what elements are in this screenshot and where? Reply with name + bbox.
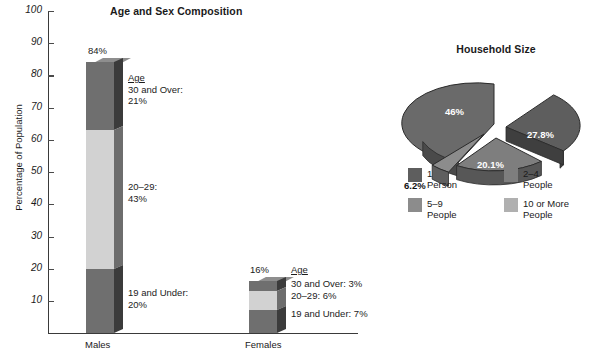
y-tick-label-60: 60 <box>0 133 42 144</box>
y-tick-label-10: 10 <box>0 294 42 305</box>
legend-label-five-to-nine-line1: 5–9 <box>427 198 443 209</box>
legend-label-two-to-four: 2–4 People <box>523 168 553 190</box>
y-tick-60 <box>48 140 54 141</box>
bar-males-segment-30-and-over <box>86 62 114 130</box>
legend-label-ten-or-more-line2: People <box>523 209 553 220</box>
y-tick-20 <box>48 269 54 270</box>
x-axis-line <box>48 333 358 334</box>
y-tick-40 <box>48 204 54 205</box>
bar-chart-title: Age and Sex Composition <box>110 5 242 17</box>
y-tick-label-30: 30 <box>0 230 42 241</box>
legend-label-ten-or-more: 10 or More People <box>523 198 569 220</box>
males-annotation-19-under-label: 19 and Under: <box>128 287 188 298</box>
pie-label-two-to-four: 20.1% <box>477 159 504 170</box>
bar-females-total-label: 16% <box>250 264 269 275</box>
bar-males-segment-20-29 <box>86 130 114 269</box>
females-annotation-line-3: 19 and Under: 7% <box>291 308 368 319</box>
pie-chart-title: Household Size <box>380 43 612 55</box>
legend-swatch-ten-or-more <box>504 198 518 212</box>
bar-females-segment-30-and-over <box>249 281 277 291</box>
x-axis-label-females: Females <box>245 339 281 350</box>
legend-label-five-to-nine: 5–9 People <box>427 198 457 220</box>
legend-item-five-to-nine[interactable]: 5–9 People <box>408 198 457 220</box>
males-annotation-30-over-label: 30 and Over: <box>128 84 183 95</box>
bar-females-segment-20-29 <box>249 291 277 310</box>
males-annotation-20-29-label: 20–29: <box>128 181 157 192</box>
bar-females-side-19-and-under <box>277 306 286 333</box>
legend-swatch-five-to-nine <box>408 198 422 212</box>
legend-label-two-to-four-line1: 2–4 <box>523 168 539 179</box>
legend-label-ten-or-more-line1: 10 or More <box>523 198 569 209</box>
legend-label-two-to-four-line2: People <box>523 179 553 190</box>
legend-label-one-person: 1 Person <box>427 168 457 190</box>
bar-males-total-label: 84% <box>88 45 107 56</box>
y-tick-30 <box>48 237 54 238</box>
y-tick-label-20: 20 <box>0 262 42 273</box>
y-tick-label-100: 100 <box>0 4 42 15</box>
bar-males-side-30-and-over <box>114 58 123 130</box>
pie-label-ten-or-more: 46% <box>445 106 464 117</box>
pie-chart-household-size: Household Size <box>380 0 612 354</box>
males-annotation-19-under-value: 20% <box>128 299 147 310</box>
females-annotation-line-1: 30 and Over: 3% <box>291 278 362 289</box>
y-tick-100 <box>48 11 54 12</box>
y-tick-80 <box>48 75 54 76</box>
females-annotation-heading: Age <box>291 264 308 275</box>
y-tick-label-50: 50 <box>0 165 42 176</box>
bar-males-side-20-29 <box>114 126 123 269</box>
legend-swatch-one-person <box>408 168 422 182</box>
figure-canvas: Age and Sex Composition Percentage of Po… <box>0 0 612 354</box>
legend-item-two-to-four[interactable]: 2–4 People <box>504 168 553 190</box>
legend-item-ten-or-more[interactable]: 10 or More People <box>504 198 569 220</box>
x-axis-label-males: Males <box>85 339 110 350</box>
y-tick-50 <box>48 172 54 173</box>
y-tick-label-70: 70 <box>0 101 42 112</box>
males-annotation-heading: Age <box>128 72 145 83</box>
pie-label-one-person: 27.8% <box>527 129 554 140</box>
legend-swatch-two-to-four <box>504 168 518 182</box>
males-annotation-30-over-value: 21% <box>128 95 147 106</box>
y-tick-70 <box>48 108 54 109</box>
males-annotation-20-29-value: 43% <box>128 193 147 204</box>
y-tick-90 <box>48 43 54 44</box>
y-tick-label-40: 40 <box>0 197 42 208</box>
bar-males-side-19-and-under <box>114 265 123 333</box>
legend-label-one-person-line1: 1 <box>427 168 432 179</box>
y-tick-label-80: 80 <box>0 68 42 79</box>
females-annotation-line-2: 20–29: 6% <box>291 290 336 301</box>
y-tick-label-90: 90 <box>0 36 42 47</box>
bar-chart-age-sex-composition: Age and Sex Composition Percentage of Po… <box>0 0 380 354</box>
bar-males-segment-19-and-under <box>86 269 114 333</box>
y-tick-10 <box>48 301 54 302</box>
legend-label-one-person-line2: Person <box>427 179 457 190</box>
legend-label-five-to-nine-line2: People <box>427 209 457 220</box>
bar-females-segment-19-and-under <box>249 310 277 333</box>
legend-item-one-person[interactable]: 1 Person <box>408 168 457 190</box>
